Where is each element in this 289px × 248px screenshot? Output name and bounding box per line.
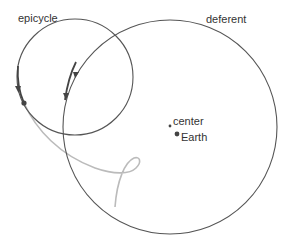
deferent-arrow-icon <box>73 72 79 78</box>
earth-dot <box>175 132 180 137</box>
epicycle-motion-arc <box>18 66 24 103</box>
planet-dot <box>21 100 26 105</box>
planet-path-trace <box>24 103 140 207</box>
deferent-arrow-icon-2 <box>63 93 69 100</box>
earth-label: Earth <box>181 132 207 143</box>
center-dot <box>169 125 172 128</box>
epicycle-label: epicycle <box>18 13 58 24</box>
epicycle-diagram <box>0 0 289 248</box>
center-label: center <box>173 116 204 127</box>
deferent-label: deferent <box>206 14 246 25</box>
